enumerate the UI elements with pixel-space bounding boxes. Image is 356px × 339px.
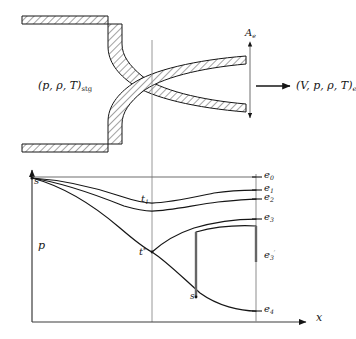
exit-state-label-e3-prime: e3′	[264, 250, 275, 261]
exit-state-label-e2: e2	[264, 192, 274, 203]
plot-stagnation-point-label: s	[34, 176, 39, 186]
throat-subsonic-label: t1	[141, 194, 149, 205]
exit-conditions-label: (V, p, ρ, T)e	[296, 80, 356, 93]
exit-state-label-e4: e4	[264, 304, 274, 315]
throat-critical-label: t*	[139, 247, 146, 257]
x-axis-label: x	[316, 312, 322, 323]
curve-shock-branch	[196, 226, 256, 232]
exit-state-label-e0: e0	[264, 170, 274, 181]
exit-state-label-e3: e3	[264, 212, 274, 223]
exit-area-label: Ae	[245, 28, 256, 39]
curve-e3	[152, 219, 256, 252]
pressure-axis-label: p	[38, 240, 45, 251]
stagnation-label: (p, ρ, T)stg	[38, 80, 92, 93]
shock-foot-label: s	[190, 292, 195, 301]
